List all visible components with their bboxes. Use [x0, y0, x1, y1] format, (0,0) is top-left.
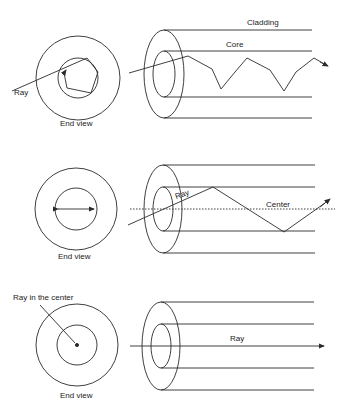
end-view-2 — [35, 168, 117, 250]
panel-meridional-ray — [35, 165, 335, 253]
end-view-1 — [12, 36, 120, 120]
ray-label-3: Ray — [230, 334, 244, 343]
panel-axial-ray — [36, 302, 324, 390]
end-view-label-2: End view — [58, 252, 90, 261]
core-label: Core — [226, 40, 243, 49]
fiber-side-3 — [130, 302, 324, 390]
cladding-label: Cladding — [247, 18, 279, 27]
end-view-label-1: End view — [60, 119, 92, 128]
panel-skew-ray — [12, 30, 328, 120]
center-label: Center — [266, 200, 290, 209]
end-view-3 — [36, 304, 118, 386]
fiber-side-2 — [128, 165, 335, 253]
end-view-label-3: End view — [60, 391, 92, 400]
fiber-ray-diagram — [0, 0, 348, 417]
ray-label-1: Ray — [14, 88, 28, 97]
ray-in-center-label: Ray in the center — [13, 293, 73, 302]
